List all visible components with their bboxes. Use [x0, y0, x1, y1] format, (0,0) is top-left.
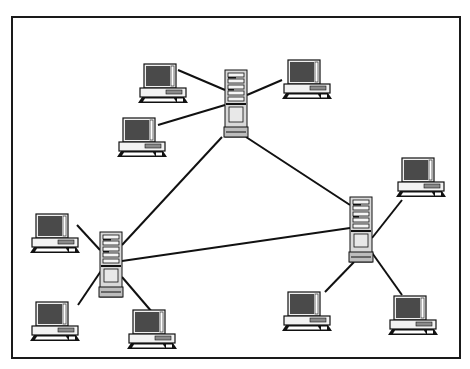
server-tower-icon: [349, 197, 373, 262]
server-tower-icon: [99, 232, 123, 297]
network-diagram: [0, 0, 470, 369]
diagram-frame: [12, 17, 460, 358]
server-tower-icon: [224, 70, 248, 137]
